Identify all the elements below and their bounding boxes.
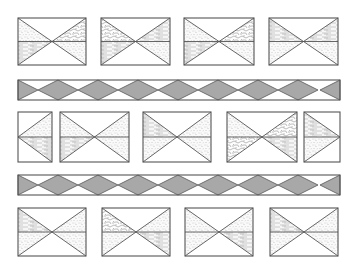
tile <box>270 208 338 256</box>
tile-rows <box>18 18 340 256</box>
tile <box>304 112 340 162</box>
pattern-illustration <box>0 0 356 267</box>
tile <box>18 18 86 65</box>
tile <box>18 112 52 162</box>
tile <box>227 112 297 162</box>
tile <box>18 208 86 256</box>
tile <box>101 18 170 65</box>
tile-row-3 <box>18 208 338 256</box>
tile-row-1 <box>18 18 338 65</box>
diamond-band-1 <box>18 80 340 100</box>
tile <box>102 208 170 256</box>
tile-row-2 <box>18 112 340 162</box>
tile <box>184 18 254 65</box>
tile <box>185 208 253 256</box>
tile <box>60 112 129 162</box>
diamond-band-2 <box>18 175 340 195</box>
tile <box>143 112 211 162</box>
tile <box>269 18 338 65</box>
